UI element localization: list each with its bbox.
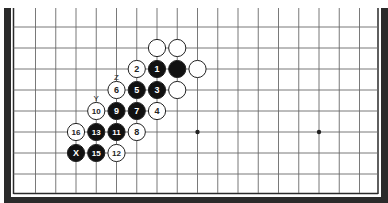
white-stone: 4 (148, 102, 165, 119)
stone-move-number: 16 (72, 128, 81, 137)
stone-move-number: 3 (154, 85, 159, 95)
frame-bottom-bar (4, 197, 388, 203)
stone-move-number: X (73, 148, 79, 158)
frame-right-bar (381, 8, 388, 203)
stone-move-number: 1 (154, 64, 159, 74)
stone-move-number: 5 (134, 85, 139, 95)
stone-move-number: 8 (134, 127, 139, 137)
white-stone (148, 39, 165, 56)
white-stone-icon (169, 81, 186, 98)
black-stone: 5 (128, 81, 145, 98)
star-point-icon (195, 130, 199, 134)
white-stone (189, 60, 206, 77)
stone-move-number: 4 (154, 106, 159, 116)
white-stone: 2 (128, 60, 145, 77)
black-stone: 15 (88, 144, 105, 161)
white-stone: 6 (108, 81, 125, 98)
white-stone (169, 81, 186, 98)
white-stone (169, 39, 186, 56)
white-stone-icon (148, 39, 165, 56)
black-stone-icon (169, 60, 186, 77)
stone-move-number: 6 (114, 85, 119, 95)
black-stone: 3 (148, 81, 165, 98)
stone-move-number: 11 (112, 128, 121, 137)
stone-move-number: 13 (92, 128, 101, 137)
black-stone: 9 (108, 102, 125, 119)
stone-move-number: 10 (92, 107, 101, 116)
go-board-diagram: ZY 21653109741613118X1512 (0, 0, 388, 203)
frame-left-bar (4, 8, 11, 203)
stone-move-number: 2 (134, 64, 139, 74)
white-stone: 10 (88, 102, 105, 119)
white-stone: 12 (108, 144, 125, 161)
white-stone: 8 (128, 123, 145, 140)
white-stone: 16 (67, 123, 84, 140)
stone-move-number: 9 (114, 106, 119, 116)
white-stone-icon (189, 60, 206, 77)
black-stone: 7 (128, 102, 145, 119)
black-stone (169, 60, 186, 77)
white-stone-icon (169, 39, 186, 56)
black-stone: X (67, 144, 84, 161)
black-stone: 13 (88, 123, 105, 140)
star-point-icon (317, 130, 321, 134)
stone-move-number: 12 (112, 149, 121, 158)
board-grid (14, 8, 379, 193)
black-stone: 1 (148, 60, 165, 77)
stone-move-number: 7 (134, 106, 139, 116)
black-stone: 11 (108, 123, 125, 140)
stone-move-number: 15 (92, 149, 101, 158)
